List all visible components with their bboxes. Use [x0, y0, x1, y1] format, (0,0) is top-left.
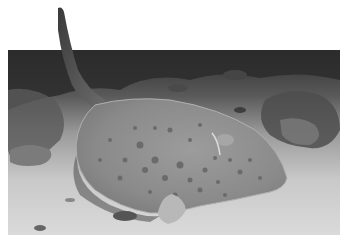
stingray-photo [0, 0, 344, 240]
stingray-eye [216, 134, 234, 146]
